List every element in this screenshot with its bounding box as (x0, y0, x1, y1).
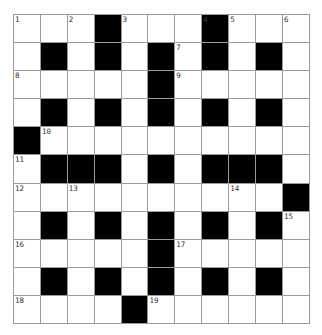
answer-cell[interactable]: 18 (14, 296, 41, 324)
block-cell (95, 43, 122, 71)
answer-cell[interactable] (122, 71, 149, 99)
answer-cell[interactable] (148, 184, 175, 212)
block-cell (202, 99, 229, 127)
answer-cell[interactable] (175, 268, 202, 296)
answer-cell[interactable] (283, 127, 310, 155)
answer-cell[interactable] (256, 127, 283, 155)
block-cell (148, 99, 175, 127)
answer-cell[interactable]: 9 (175, 71, 202, 99)
answer-cell[interactable] (202, 240, 229, 268)
answer-cell[interactable] (122, 127, 149, 155)
answer-cell[interactable]: 15 (283, 212, 310, 240)
answer-cell[interactable] (68, 127, 95, 155)
answer-cell[interactable]: 11 (14, 155, 41, 183)
answer-cell[interactable] (14, 43, 41, 71)
answer-cell[interactable] (256, 15, 283, 43)
answer-cell[interactable] (68, 268, 95, 296)
answer-cell[interactable]: 5 (229, 15, 256, 43)
answer-cell[interactable] (175, 184, 202, 212)
block-cell (148, 71, 175, 99)
clue-number: 13 (69, 185, 78, 193)
answer-cell[interactable] (229, 212, 256, 240)
answer-cell[interactable] (122, 99, 149, 127)
answer-cell[interactable] (122, 155, 149, 183)
answer-cell[interactable] (229, 268, 256, 296)
answer-cell[interactable] (202, 71, 229, 99)
answer-cell[interactable] (175, 127, 202, 155)
answer-cell[interactable] (122, 240, 149, 268)
block-cell (68, 155, 95, 183)
answer-cell[interactable]: 12 (14, 184, 41, 212)
answer-cell[interactable] (122, 43, 149, 71)
answer-cell[interactable] (95, 240, 122, 268)
answer-cell[interactable]: 8 (14, 71, 41, 99)
answer-cell[interactable] (283, 155, 310, 183)
answer-cell[interactable] (148, 15, 175, 43)
clue-number: 19 (149, 297, 158, 305)
block-cell (256, 99, 283, 127)
answer-cell[interactable] (175, 212, 202, 240)
answer-cell[interactable] (68, 99, 95, 127)
answer-cell[interactable] (175, 155, 202, 183)
answer-cell[interactable] (68, 71, 95, 99)
answer-cell[interactable] (148, 127, 175, 155)
answer-cell[interactable] (202, 296, 229, 324)
answer-cell[interactable]: 19 (148, 296, 175, 324)
answer-cell[interactable] (229, 99, 256, 127)
answer-cell[interactable] (95, 71, 122, 99)
answer-cell[interactable] (41, 240, 68, 268)
answer-cell[interactable] (256, 184, 283, 212)
answer-cell[interactable] (283, 268, 310, 296)
answer-cell[interactable] (229, 71, 256, 99)
answer-cell[interactable] (256, 240, 283, 268)
answer-cell[interactable]: 17 (175, 240, 202, 268)
answer-cell[interactable] (256, 71, 283, 99)
clue-number: 16 (15, 241, 24, 249)
answer-cell[interactable] (68, 240, 95, 268)
answer-cell[interactable] (256, 296, 283, 324)
answer-cell[interactable] (229, 43, 256, 71)
answer-cell[interactable] (283, 43, 310, 71)
answer-cell[interactable] (175, 296, 202, 324)
answer-cell[interactable] (41, 71, 68, 99)
answer-cell[interactable] (175, 99, 202, 127)
answer-cell[interactable] (41, 15, 68, 43)
answer-cell[interactable] (14, 212, 41, 240)
answer-cell[interactable] (229, 296, 256, 324)
answer-cell[interactable]: 1 (14, 15, 41, 43)
block-cell (202, 268, 229, 296)
answer-cell[interactable] (122, 268, 149, 296)
answer-cell[interactable] (41, 296, 68, 324)
answer-cell[interactable]: 14 (229, 184, 256, 212)
answer-cell[interactable] (122, 184, 149, 212)
answer-cell[interactable]: 7 (175, 43, 202, 71)
answer-cell[interactable] (14, 99, 41, 127)
answer-cell[interactable] (68, 212, 95, 240)
answer-cell[interactable] (175, 15, 202, 43)
block-cell (148, 155, 175, 183)
answer-cell[interactable] (122, 212, 149, 240)
answer-cell[interactable] (283, 99, 310, 127)
answer-cell[interactable]: 10 (41, 127, 68, 155)
block-cell (148, 43, 175, 71)
answer-cell[interactable]: 3 (122, 15, 149, 43)
answer-cell[interactable] (202, 127, 229, 155)
answer-cell[interactable]: 16 (14, 240, 41, 268)
answer-cell[interactable]: 6 (283, 15, 310, 43)
answer-cell[interactable] (283, 71, 310, 99)
answer-cell[interactable]: 2 (68, 15, 95, 43)
answer-cell[interactable] (202, 184, 229, 212)
answer-cell[interactable] (14, 268, 41, 296)
block-cell (14, 127, 41, 155)
answer-cell[interactable] (68, 43, 95, 71)
answer-cell[interactable] (41, 184, 68, 212)
answer-cell[interactable]: 13 (68, 184, 95, 212)
answer-cell[interactable] (95, 296, 122, 324)
answer-cell[interactable] (229, 127, 256, 155)
answer-cell[interactable] (95, 184, 122, 212)
answer-cell[interactable] (229, 240, 256, 268)
answer-cell[interactable] (283, 296, 310, 324)
answer-cell[interactable] (68, 296, 95, 324)
answer-cell[interactable] (283, 240, 310, 268)
answer-cell[interactable] (95, 127, 122, 155)
